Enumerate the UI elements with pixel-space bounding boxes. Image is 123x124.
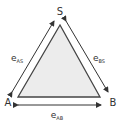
vertex-label-a: A: [5, 97, 12, 108]
edge-label-ab: eAB: [51, 110, 64, 121]
edge-label-bs-sub: BS: [99, 58, 106, 64]
edge-label-as-sub: AS: [16, 58, 23, 64]
edge-label-ab-sub: AB: [56, 115, 63, 121]
vertex-label-b: B: [110, 97, 117, 108]
edge-label-bs: eBS: [93, 53, 105, 64]
vertex-label-s: S: [57, 6, 63, 17]
triangle-diagram: S A B eAS eBS eAB: [0, 0, 123, 124]
edge-label-as: eAS: [11, 53, 23, 64]
